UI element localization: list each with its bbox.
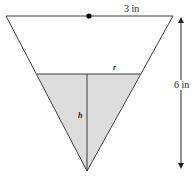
center-dot [86, 13, 91, 18]
top-radius-label: 3 in [124, 3, 139, 14]
water-height-label: h [78, 111, 83, 120]
height-label: 6 in [174, 79, 189, 90]
water-radius-label: r [113, 63, 117, 72]
cone-diagram: 3 in 6 in r h [0, 0, 195, 184]
water-region [37, 74, 140, 171]
